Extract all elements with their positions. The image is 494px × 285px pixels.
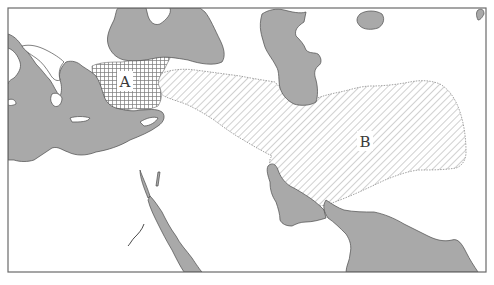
- peloponnese: [51, 93, 62, 106]
- aral-sea: [357, 11, 384, 29]
- region-a-label: A: [119, 73, 131, 91]
- region-b-label: B: [359, 133, 370, 151]
- historical-map: A B: [0, 0, 494, 285]
